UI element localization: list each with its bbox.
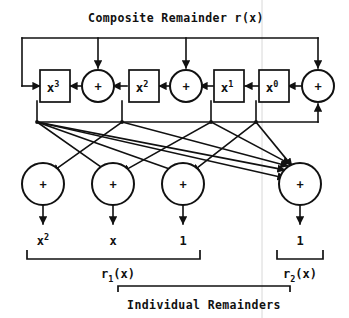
output-label-x: x bbox=[109, 234, 116, 248]
page-title: Composite Remainder r(x) bbox=[88, 11, 264, 25]
register-exponent-x3: 3 bbox=[54, 79, 59, 89]
group-suffix-r2: (x) bbox=[295, 267, 317, 281]
adder-top-3-symbol: + bbox=[314, 80, 321, 94]
output-base-1: 1 bbox=[179, 234, 186, 248]
register-exponent-x0: 0 bbox=[273, 79, 278, 89]
output-labels: x2 x 1 1 bbox=[37, 232, 304, 248]
adder-bottom-1-symbol: + bbox=[39, 178, 46, 192]
bottom-adders: + + + + bbox=[22, 163, 321, 205]
group-brackets: r1(x) r2(x) bbox=[27, 250, 323, 284]
crossbar-wires bbox=[37, 122, 292, 178]
register-exponent-x1: 1 bbox=[228, 79, 233, 89]
output-label-1: 1 bbox=[179, 234, 186, 248]
figure-caption: Individual Remainders bbox=[127, 298, 281, 312]
register-exponent-x2: 2 bbox=[143, 79, 148, 89]
composite-remainder-diagram: Composite Remainder r(x) bbox=[0, 0, 349, 318]
group-suffix-r1: (x) bbox=[113, 267, 135, 281]
adder-bottom-2-symbol: + bbox=[109, 178, 116, 192]
adder-bottom-4-symbol: + bbox=[296, 178, 303, 192]
adder-top-1-symbol: + bbox=[94, 80, 101, 94]
output-arrows bbox=[43, 205, 300, 224]
bracket-individual-remainders bbox=[118, 286, 290, 292]
output-base-1b: 1 bbox=[296, 234, 303, 248]
adder-bottom-3-symbol: + bbox=[179, 178, 186, 192]
output-exponent-x2: 2 bbox=[44, 232, 49, 242]
caption-bracket-group: Individual Remainders bbox=[118, 286, 290, 312]
bracket-r1 bbox=[27, 250, 200, 259]
register-taps bbox=[35, 101, 258, 124]
group-label-r2: r2(x) bbox=[283, 267, 317, 284]
output-label-x2: x2 bbox=[37, 232, 49, 248]
group-base-r2: r bbox=[283, 267, 290, 281]
bracket-r2 bbox=[277, 250, 323, 259]
output-base-x2: x bbox=[37, 234, 44, 248]
output-label-1b: 1 bbox=[296, 234, 303, 248]
group-base-r1: r bbox=[101, 267, 108, 281]
diagram-canvas: Composite Remainder r(x) bbox=[0, 0, 349, 318]
output-base-x: x bbox=[109, 234, 116, 248]
adder-top-2-symbol: + bbox=[182, 80, 189, 94]
group-label-r1: r1(x) bbox=[101, 267, 135, 284]
feedback-path bbox=[37, 104, 318, 122]
